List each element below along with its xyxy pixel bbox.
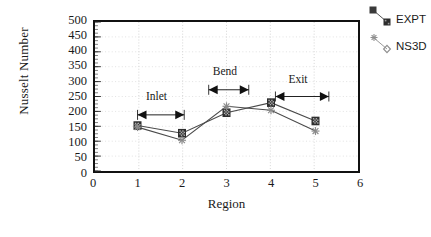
x-tick-label: 1	[128, 177, 148, 189]
annotation-label-exit: Exit	[288, 74, 307, 85]
star-diamond-marker-icon	[368, 31, 396, 58]
y-tick-label: 200	[53, 105, 87, 117]
x-tick-label: 4	[261, 177, 281, 189]
x-tick-label: 5	[306, 177, 326, 189]
legend-item-expt[interactable]: EXPT	[368, 4, 431, 31]
y-axis-title: Nusselt Number	[16, 1, 32, 141]
annotation-label-inlet: Inlet	[146, 91, 167, 102]
legend-item-ns3d[interactable]: NS3D	[368, 31, 431, 58]
y-tick-label: 400	[53, 44, 87, 56]
y-tick-label: 50	[53, 151, 87, 163]
filled-square-marker-icon	[368, 4, 396, 31]
x-tick-label: 0	[83, 177, 103, 189]
plot-canvas	[95, 22, 358, 171]
y-tick-label: 100	[53, 136, 87, 148]
y-tick-label: 0	[53, 167, 87, 179]
legend-label-expt: EXPT	[396, 13, 426, 25]
x-tick-label: 6	[350, 177, 370, 189]
y-tick-label: 300	[53, 75, 87, 87]
y-tick-label: 150	[53, 121, 87, 133]
chart-figure: Nusselt Number 5004504003503002502001501…	[0, 0, 431, 237]
legend-label-ns3d: NS3D	[396, 40, 427, 52]
x-tick-label: 2	[172, 177, 192, 189]
x-axis-title: Region	[93, 196, 360, 212]
x-tick-label: 3	[217, 177, 237, 189]
y-tick-label: 350	[53, 59, 87, 71]
y-tick-label: 250	[53, 90, 87, 102]
y-tick-label: 500	[53, 14, 87, 26]
plot-area	[93, 20, 360, 173]
chart-legend: EXPT NS3D	[368, 4, 431, 58]
y-tick-label: 450	[53, 29, 87, 41]
annotation-label-bend: Bend	[213, 66, 237, 77]
